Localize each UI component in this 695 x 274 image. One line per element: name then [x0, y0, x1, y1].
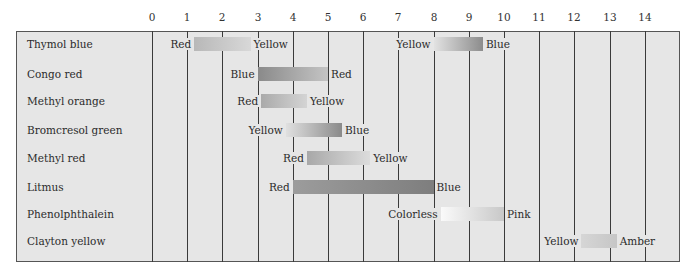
x-tick-label: 5 [325, 11, 332, 23]
indicator-name: Litmus [27, 181, 64, 193]
high-ph-color-label: Yellow [308, 95, 346, 107]
high-ph-color-label: Yellow [252, 38, 290, 50]
x-tick-label: 14 [638, 11, 651, 23]
low-ph-color-label: Red [168, 38, 193, 50]
x-tick-label: 3 [255, 11, 262, 23]
x-tick-label: 9 [466, 11, 473, 23]
indicator-name: Bromcresol green [27, 124, 122, 136]
transition-range-bar [286, 123, 342, 137]
gridline-ph-12 [574, 31, 575, 262]
low-ph-color-label: Red [235, 95, 260, 107]
indicator-name: Methyl orange [27, 95, 105, 107]
x-tick-label: 12 [567, 11, 580, 23]
transition-range-bar [261, 94, 307, 108]
x-tick-label: 10 [497, 11, 510, 23]
gridline-ph-3 [258, 31, 259, 262]
low-ph-color-label: Yellow [394, 38, 432, 50]
gridline-ph-7 [398, 31, 399, 262]
high-ph-color-label: Blue [484, 38, 512, 50]
gridline-ph-8 [434, 31, 435, 262]
low-ph-color-label: Red [281, 152, 306, 164]
high-ph-color-label: Blue [435, 181, 463, 193]
x-tick-label: 6 [360, 11, 367, 23]
x-tick-label: 8 [431, 11, 438, 23]
x-tick-label: 11 [532, 11, 545, 23]
gridline-ph-14 [645, 31, 646, 262]
x-tick-label: 4 [290, 11, 297, 23]
indicator-name: Thymol blue [27, 38, 93, 50]
transition-range-bar [293, 180, 434, 194]
transition-range-bar [194, 37, 250, 51]
low-ph-color-label: Blue [229, 68, 257, 80]
gridline-ph-11 [539, 31, 540, 262]
transition-range-bar [307, 151, 370, 165]
indicator-name: Congo red [27, 68, 82, 80]
indicator-name: Methyl red [27, 152, 86, 164]
low-ph-color-label: Red [267, 181, 292, 193]
high-ph-color-label: Amber [618, 235, 658, 247]
transition-range-bar [434, 37, 483, 51]
indicator-name: Phenolphthalein [27, 208, 114, 220]
high-ph-color-label: Red [329, 68, 354, 80]
transition-range-bar [441, 207, 504, 221]
gridline-ph-10 [504, 31, 505, 262]
low-ph-color-label: Yellow [247, 124, 285, 136]
x-tick-label: 13 [603, 11, 616, 23]
gridline-ph-4 [293, 31, 294, 262]
gridline-ph-9 [469, 31, 470, 262]
low-ph-color-label: Yellow [542, 235, 580, 247]
x-tick-label: 2 [219, 11, 226, 23]
low-ph-color-label: Colorless [386, 208, 439, 220]
high-ph-color-label: Pink [505, 208, 533, 220]
transition-range-bar [258, 67, 328, 81]
high-ph-color-label: Yellow [371, 152, 409, 164]
x-tick-label: 1 [184, 11, 191, 23]
gridline-ph-2 [222, 31, 223, 262]
gridline-ph-0 [152, 31, 153, 262]
x-tick-label: 0 [149, 11, 156, 23]
indicator-name: Clayton yellow [27, 235, 105, 247]
transition-range-bar [581, 234, 616, 248]
gridline-ph-13 [610, 31, 611, 262]
gridline-ph-6 [363, 31, 364, 262]
gridline-ph-5 [328, 31, 329, 262]
chart-frame [16, 31, 680, 262]
x-tick-label: 7 [395, 11, 402, 23]
gridline-ph-1 [187, 31, 188, 262]
high-ph-color-label: Blue [343, 124, 371, 136]
ph-indicator-chart: 01234567891011121314Thymol blueRedYellow… [0, 0, 695, 274]
